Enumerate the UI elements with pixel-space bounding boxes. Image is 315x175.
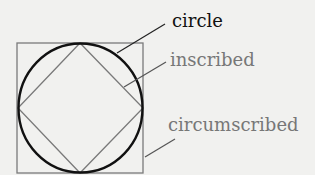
circumscribed-label: circumscribed (168, 116, 299, 134)
circle-label: circle (172, 12, 223, 30)
inscribed-label: inscribed (170, 51, 255, 69)
circumscribed-leader-line (145, 139, 175, 157)
geometry-figure (0, 0, 315, 175)
circle-leader-line (117, 24, 165, 53)
circle-shape (19, 44, 143, 173)
inscribed-leader-line (124, 62, 166, 87)
diagram-canvas: circle inscribed circumscribed (0, 0, 315, 175)
